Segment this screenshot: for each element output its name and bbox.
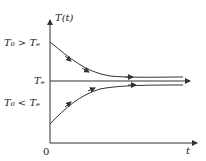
upper-start-label: T₀ > Tₑ: [4, 37, 40, 48]
lower-curve: [50, 85, 183, 124]
origin-label: 0: [43, 146, 49, 157]
x-axis-label: t: [186, 145, 191, 156]
equilibrium-label: Tₑ: [34, 75, 45, 86]
y-axis-label: T(t): [55, 12, 74, 23]
lower-start-label: T₀ < Tₑ: [4, 97, 40, 108]
cooling-diagram: T(t) t 0 T₀ > Tₑ Tₑ T₀ < Tₑ: [0, 0, 206, 161]
lower-curve-arrow-icon: [88, 88, 95, 91]
